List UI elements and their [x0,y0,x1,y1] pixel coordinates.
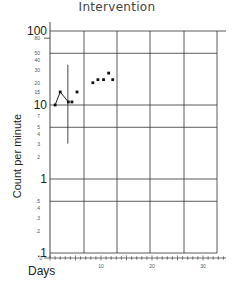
data-point [71,101,74,104]
y-tick-label-minor: 30 [34,67,40,73]
data-point [102,78,105,81]
x-tick-label: 30 [200,263,206,269]
y-tick-label-minor: 4 [37,131,40,137]
y-tick-label-minor: .2 [36,228,40,234]
y-tick-label-major: 10 [34,98,48,112]
data-point [76,91,79,94]
y-tick-label-minor: 5 [37,124,40,130]
y-tick-label-minor: 3 [37,141,40,147]
data-point [54,104,57,107]
data-point [91,81,94,84]
y-tick-label-minor: 2 [37,154,40,160]
y-tick-label-minor: .4 [36,205,40,211]
data-point [107,72,110,75]
y-tick-label-minor: 80 [34,35,40,41]
x-tick-label: 0 [40,255,43,261]
chart-plot-area: 100101.180504030201575432.5.4.3.20102030 [0,0,234,283]
x-tick-label: 10 [98,263,104,269]
data-point [67,101,70,104]
y-tick-label-minor: 20 [34,80,40,86]
x-tick-label: 20 [149,263,155,269]
data-line [55,92,68,105]
data-point [111,78,114,81]
data-point [97,78,100,81]
data-point [59,91,62,94]
y-tick-label-minor: 40 [34,57,40,63]
y-tick-label-minor: 7 [37,113,40,119]
y-tick-label-minor: .5 [36,198,40,204]
y-tick-label-minor: 50 [34,50,40,56]
y-tick-label-minor: 15 [34,89,40,95]
y-tick-label-major: 1 [40,172,47,186]
y-tick-label-minor: .3 [36,215,40,221]
